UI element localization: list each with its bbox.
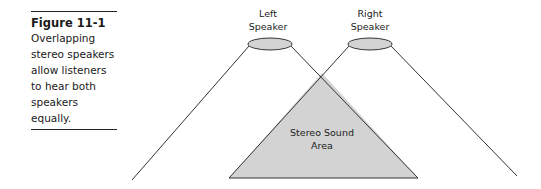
stereo-speaker-diagram: Left Speaker Right Speaker Stereo Sound … <box>0 0 541 189</box>
stereo-sound-area <box>229 73 418 178</box>
right-speaker-label: Right <box>357 8 382 19</box>
stereo-area-label: Area <box>311 140 333 151</box>
left-speaker-label: Left <box>259 8 277 19</box>
right-speaker-label: Speaker <box>351 21 390 32</box>
right-beam-outer <box>391 46 517 176</box>
left-beam-outer <box>132 46 249 180</box>
right-speaker-icon <box>348 38 392 50</box>
left-speaker-label: Speaker <box>249 21 288 32</box>
stereo-area-label: Stereo Sound <box>290 127 354 138</box>
left-speaker-icon <box>248 38 292 50</box>
